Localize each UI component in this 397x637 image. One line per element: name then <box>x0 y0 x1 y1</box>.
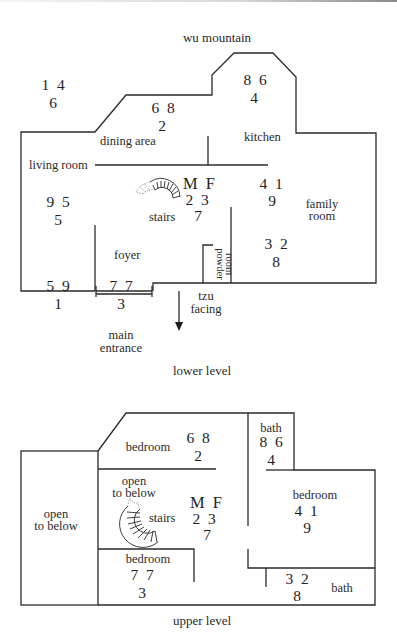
svg-text:8 6: 8 6 <box>243 71 267 88</box>
svg-text:8 6: 8 6 <box>259 433 283 450</box>
svg-text:3: 3 <box>117 295 125 312</box>
svg-text:6 8: 6 8 <box>186 429 210 446</box>
star-outside: 1 4 6 <box>41 76 65 111</box>
star-dining: 6 8 2 <box>151 99 175 134</box>
stairs-upper-label: stairs <box>149 511 176 525</box>
svg-text:2: 2 <box>194 447 202 464</box>
svg-text:1: 1 <box>54 295 62 312</box>
tzu-facing-arrow-icon <box>175 291 183 331</box>
wu-mountain-label: wu mountain <box>183 30 252 45</box>
star-kitchen: 8 6 4 <box>243 71 267 106</box>
open-to-below-left-label-2: to below <box>34 519 77 533</box>
star-living: 9 5 5 <box>46 193 70 228</box>
upper-level-plan: open to below bedroom open to below stai… <box>21 413 375 628</box>
bedroom-east-label: bedroom <box>293 488 338 502</box>
svg-text:7 7: 7 7 <box>130 566 154 583</box>
facing-label: facing <box>190 302 222 316</box>
svg-text:9 5: 9 5 <box>46 193 70 210</box>
open-to-below-center-label-2: to below <box>112 486 155 500</box>
star-family-south: 3 2 8 <box>264 235 287 270</box>
star-bedroom-southwest: 7 7 3 <box>130 566 154 601</box>
svg-text:9: 9 <box>303 519 311 536</box>
star-bedroom-north: 6 8 2 <box>186 429 210 464</box>
star-family-north: 4 1 9 <box>259 175 282 209</box>
svg-text:9: 9 <box>268 192 276 209</box>
bedroom-southwest-label: bedroom <box>126 552 171 566</box>
lower-outer-wall <box>21 53 376 291</box>
family-room-label-2: room <box>309 209 336 223</box>
svg-text:3 2: 3 2 <box>264 235 287 252</box>
svg-text:4: 4 <box>250 89 258 106</box>
stairs-icon <box>136 178 180 198</box>
lower-level-caption: lower level <box>173 363 232 378</box>
bedroom-east-south-wall <box>248 549 375 568</box>
svg-text:2 3: 2 3 <box>185 191 209 208</box>
kitchen-label: kitchen <box>244 130 282 144</box>
svg-text:5 9: 5 9 <box>46 277 70 294</box>
tzu-label: tzu <box>198 289 214 303</box>
star-center-upper: M F 2 3 7 <box>190 493 222 543</box>
living-room-label: living room <box>29 158 88 172</box>
svg-text:8: 8 <box>272 253 280 270</box>
svg-text:5: 5 <box>54 211 62 228</box>
floor-plan: wu mountain <box>0 0 397 637</box>
foyer-label: foyer <box>114 248 141 262</box>
svg-text:4 1: 4 1 <box>259 175 282 192</box>
svg-text:3: 3 <box>138 584 146 601</box>
bedroom-north-label: bedroom <box>126 440 171 454</box>
star-southwest: 5 9 1 <box>46 277 70 312</box>
svg-text:6 8: 6 8 <box>151 99 175 116</box>
svg-text:7: 7 <box>194 207 202 224</box>
svg-text:2 3: 2 3 <box>192 510 216 527</box>
svg-text:7: 7 <box>203 526 211 543</box>
main-entrance-label: main <box>109 328 135 342</box>
dining-area-label: dining area <box>100 134 156 148</box>
star-bath-north: 8 6 4 <box>259 433 283 468</box>
svg-text:1 4: 1 4 <box>41 76 65 93</box>
powder-room-wall <box>203 245 213 283</box>
bath-south-label: bath <box>331 581 353 595</box>
powder-room-label-2: room <box>224 253 235 275</box>
star-bath-south: 3 2 8 <box>285 570 308 604</box>
star-bedroom-east: 4 1 9 <box>294 502 317 536</box>
svg-text:2: 2 <box>158 117 166 134</box>
stairs-label: stairs <box>149 210 176 224</box>
svg-text:3 2: 3 2 <box>285 570 308 587</box>
main-entrance-label-2: entrance <box>100 341 143 355</box>
star-center: M F 2 3 7 <box>183 174 215 224</box>
svg-text:7 7: 7 7 <box>109 277 133 294</box>
svg-text:4 1: 4 1 <box>294 502 317 519</box>
svg-text:6: 6 <box>49 94 57 111</box>
svg-text:8: 8 <box>293 587 301 604</box>
lower-level-plan: wu mountain <box>21 30 376 378</box>
upper-level-caption: upper level <box>173 613 232 628</box>
svg-text:4: 4 <box>267 451 275 468</box>
